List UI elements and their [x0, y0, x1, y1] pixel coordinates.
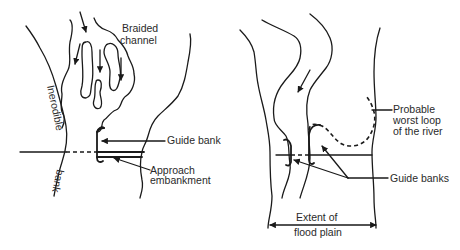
floodplain-right-edge [372, 28, 380, 228]
braid-island-2 [104, 43, 121, 90]
right-guide-bank [309, 134, 314, 164]
river-right-bank [300, 14, 332, 198]
probable-loop-label-3: of the river [393, 125, 443, 137]
flow-arrow [80, 12, 86, 32]
approach-embankment-label-2: embankment [150, 174, 211, 186]
guide-banks-label: Guide banks [390, 172, 449, 184]
extent-label-2: flood plain [294, 226, 342, 238]
right-diagram: Probable worst loop of the river Guide b… [240, 14, 449, 238]
left-diagram: Braided channel Guide bank Approach emba… [20, 12, 221, 198]
guide-bank-label: Guide bank [167, 134, 221, 146]
river-left-bank [262, 20, 301, 198]
braided-channel-label-1: Braided [122, 22, 158, 34]
bank-label: bank [50, 169, 67, 194]
braid-island-3 [93, 80, 101, 109]
flow-arrow [75, 44, 80, 64]
diagram-canvas: Braided channel Guide bank Approach emba… [0, 0, 460, 250]
extent-label-1: Extent of [296, 211, 338, 223]
floodplain-left-edge [240, 30, 272, 228]
inerodible-label: Inerodible [45, 84, 66, 132]
probable-worst-loop [309, 96, 375, 146]
loop-solid-start [309, 125, 320, 134]
approach-leader [114, 158, 150, 170]
braid-island-1 [81, 42, 93, 98]
flow-arrow [298, 70, 310, 92]
braided-channel-label-2: channel [120, 34, 157, 46]
